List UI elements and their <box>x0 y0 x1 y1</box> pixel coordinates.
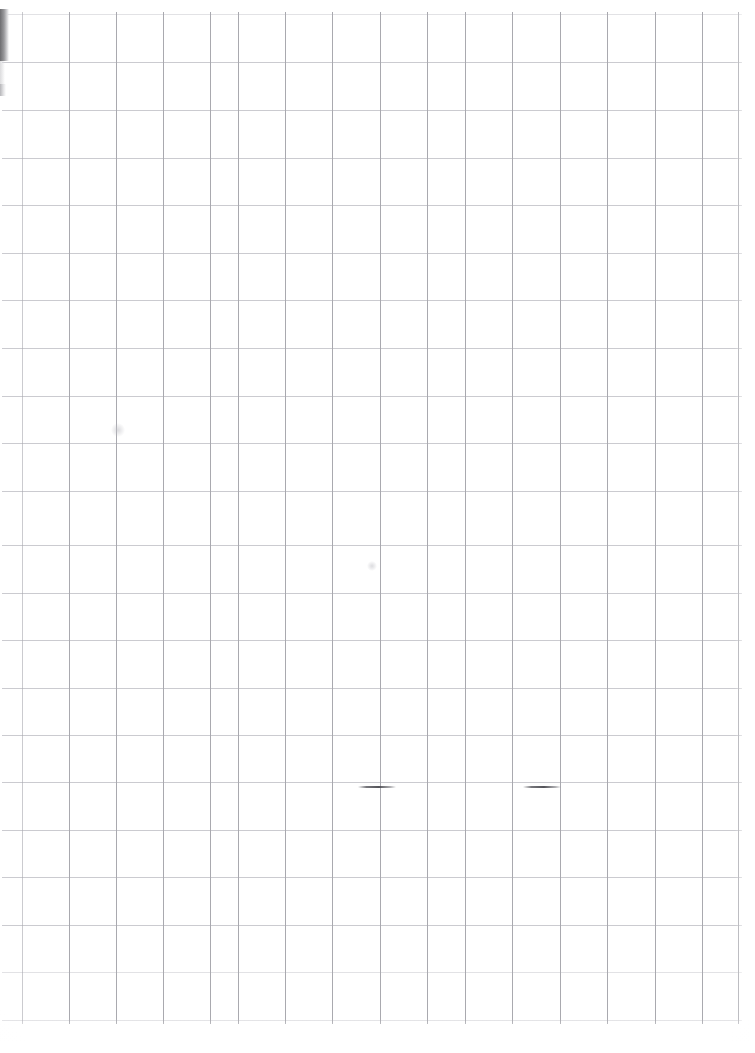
grid-vertical-line <box>69 12 70 1024</box>
left-edge-scan-shadow-faint <box>0 61 5 85</box>
grid-vertical-line <box>380 12 381 1024</box>
scanned-grid-paper-page <box>0 0 755 1053</box>
grid-vertical-line <box>332 12 333 1024</box>
grid-vertical-line <box>560 12 561 1024</box>
left-edge-scan-shadow-small <box>0 84 6 96</box>
paper-right-edge-fade <box>735 0 755 1053</box>
smudge-mid <box>367 561 377 571</box>
grid-vertical-line <box>607 12 608 1024</box>
grid-vertical-line <box>512 12 513 1024</box>
grid-vertical-line <box>238 12 239 1024</box>
paper-bottom-edge-fade <box>0 1019 755 1053</box>
grid-vertical-line <box>702 12 703 1024</box>
grid-vertical-line <box>655 12 656 1024</box>
grid-vertical-line <box>163 12 164 1024</box>
pen-mark-left <box>358 786 396 788</box>
grid-vertical-line <box>465 12 466 1024</box>
pen-mark-right <box>523 786 561 788</box>
grid-vertical-line <box>116 12 117 1024</box>
grid-vertical-line <box>210 12 211 1024</box>
left-edge-scan-shadow-icon <box>0 9 9 61</box>
grid-vertical-lines <box>0 0 755 1053</box>
smudge-upper-left <box>111 423 125 437</box>
grid-vertical-line <box>427 12 428 1024</box>
grid-vertical-line <box>22 12 23 1024</box>
grid-layer <box>0 0 755 1053</box>
grid-vertical-line <box>285 12 286 1024</box>
